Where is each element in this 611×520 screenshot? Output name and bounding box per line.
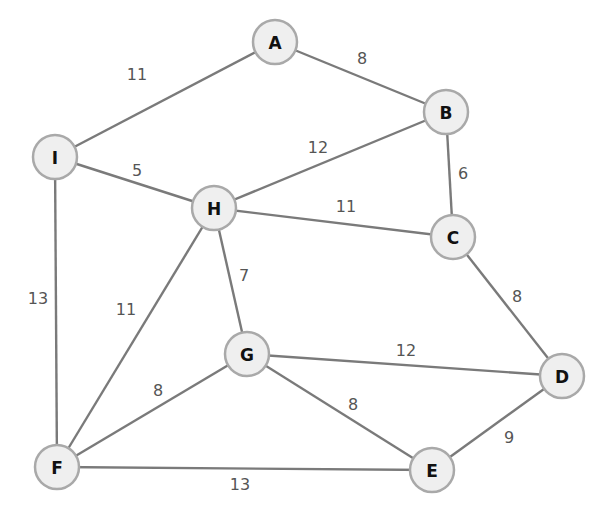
edge-weight-h-c: 11 xyxy=(336,197,356,216)
edge-f-e xyxy=(57,467,432,470)
node-a: A xyxy=(253,20,297,64)
edges-layer xyxy=(55,42,562,470)
node-label: I xyxy=(52,148,58,168)
weighted-graph: 8116125131171181288139 ABIHCGDFE xyxy=(0,0,611,520)
edge-weight-g-e: 8 xyxy=(348,395,358,414)
edge-c-d xyxy=(453,237,562,376)
edge-weight-b-h: 12 xyxy=(308,138,328,157)
edge-i-f xyxy=(55,157,57,467)
node-b: B xyxy=(424,90,468,134)
edge-weight-h-f: 11 xyxy=(116,300,136,319)
node-i: I xyxy=(33,135,77,179)
edge-weight-b-c: 6 xyxy=(458,164,468,183)
edge-weight-a-b: 8 xyxy=(357,49,367,68)
edge-weight-i-h: 5 xyxy=(132,161,142,180)
node-label: A xyxy=(268,33,282,53)
node-label: H xyxy=(207,199,221,219)
node-label: F xyxy=(51,458,63,478)
edge-weight-g-d: 12 xyxy=(396,341,416,360)
node-e: E xyxy=(410,448,454,492)
node-f: F xyxy=(35,445,79,489)
edge-h-c xyxy=(214,208,453,237)
edge-weight-e-d: 9 xyxy=(504,428,514,447)
edge-h-f xyxy=(57,208,214,467)
edge-weight-a-i: 11 xyxy=(127,65,147,84)
edge-g-f xyxy=(57,354,247,467)
node-label: G xyxy=(240,345,254,365)
node-label: B xyxy=(440,103,453,123)
edge-e-d xyxy=(432,376,562,470)
edge-weight-c-d: 8 xyxy=(512,287,522,306)
edge-weight-i-f: 13 xyxy=(28,289,48,308)
node-label: C xyxy=(447,228,459,248)
edge-weight-f-e: 13 xyxy=(230,475,250,494)
node-g: G xyxy=(225,332,269,376)
node-label: D xyxy=(555,367,569,387)
edge-a-i xyxy=(55,42,275,157)
node-d: D xyxy=(540,354,584,398)
edge-g-e xyxy=(247,354,432,470)
edge-weight-g-f: 8 xyxy=(153,381,163,400)
node-h: H xyxy=(192,186,236,230)
node-c: C xyxy=(431,215,475,259)
edge-weight-h-g: 7 xyxy=(239,266,249,285)
node-label: E xyxy=(426,461,438,481)
edge-b-h xyxy=(214,112,446,208)
